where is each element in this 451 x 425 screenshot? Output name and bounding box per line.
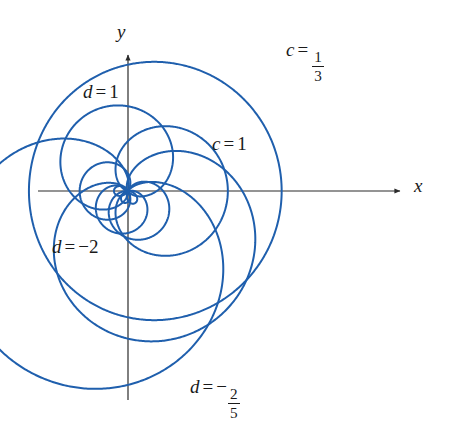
label-variable: d [190,376,200,397]
fraction-numerator: 1 [312,49,324,65]
polar-curves-figure: c=13 c=1 d=1 d=−2 d=−25 x y [0,0,451,425]
curve-label-d-one: d=1 [83,82,119,101]
label-variable: d [83,81,93,102]
y-axis-label: y [117,22,125,41]
curve-label-c-one: c=1 [212,134,247,153]
fraction-one-third: 13 [311,49,325,84]
fraction-denominator: 5 [228,405,240,421]
fraction-two-fifths: 25 [227,386,241,421]
polar-curve-d-2 [0,139,223,389]
label-value: −2 [78,236,98,257]
curve-label-d-minus-two-fifths: d=−25 [190,377,241,421]
polar-curve-inner-loop-c [109,182,170,240]
label-equals: = [93,81,110,102]
label-equals: = [200,376,217,397]
curves [0,62,282,389]
label-equals: = [220,133,237,154]
label-equals: = [294,39,311,60]
label-minus-sign: − [216,376,227,397]
label-value: 1 [237,133,247,154]
plot-canvas [0,0,451,425]
fraction-numerator: 2 [228,386,240,402]
curve-label-d-minus-two: d=−2 [52,237,98,256]
label-variable: d [52,236,62,257]
fraction-denominator: 3 [312,68,324,84]
label-equals: = [62,236,79,257]
label-value: 1 [109,81,119,102]
curve-label-c-one-third: c=13 [286,40,325,84]
axes [38,55,400,400]
x-axis-label: x [414,176,422,195]
